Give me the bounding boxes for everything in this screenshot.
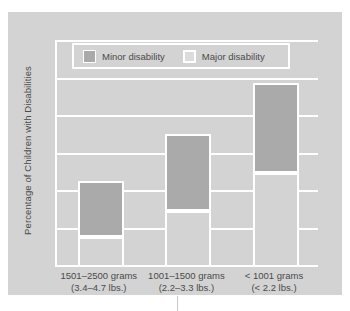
minor-disability-bar-2[interactable] xyxy=(165,134,211,211)
x-label-1-line-1: 1501–2500 grams xyxy=(55,270,143,282)
x-label-1-line-2: (3.4–4.7 lbs.) xyxy=(55,282,143,294)
minor-disability-bar-3[interactable] xyxy=(253,83,299,173)
y-axis-title: Percentage of Children with Disabilities xyxy=(22,46,33,256)
legend-item-minor-disability[interactable]: Minor disability xyxy=(83,50,165,63)
x-label-1001-1500-grams: 1001–1500 grams (2.2–3.3 lbs.) xyxy=(143,270,231,294)
major-disability-bar-1[interactable] xyxy=(78,237,124,267)
x-label-2-line-2: (2.2–3.3 lbs.) xyxy=(143,282,231,294)
legend-label-major: Major disability xyxy=(202,51,265,62)
legend-label-minor: Minor disability xyxy=(102,51,165,62)
x-axis-labels: 1501–2500 grams (3.4–4.7 lbs.) 1001–1500… xyxy=(55,270,318,294)
major-disability-bar-2[interactable] xyxy=(165,211,211,267)
x-label-1501-2500-grams: 1501–2500 grams (3.4–4.7 lbs.) xyxy=(55,270,143,294)
chart-figure: Percentage of Children with Disabilities… xyxy=(8,12,342,295)
chart-legend: Minor disability Major disability xyxy=(72,43,290,69)
gridline-50: 50 xyxy=(57,78,318,80)
gridline-60: 60 xyxy=(57,40,318,42)
x-label-2-line-1: 1001–1500 grams xyxy=(143,270,231,282)
cropped-tick-artifact xyxy=(177,296,178,311)
plot-area: 60 50 40 30 20 10 0 xyxy=(55,40,318,267)
major-disability-bar-3[interactable] xyxy=(253,173,299,267)
major-swatch-icon xyxy=(183,50,196,63)
minor-swatch-icon xyxy=(83,50,96,63)
x-label-less-than-1001-grams: < 1001 grams (< 2.2 lbs.) xyxy=(230,270,318,294)
legend-item-major-disability[interactable]: Major disability xyxy=(183,50,265,63)
x-label-3-line-1: < 1001 grams xyxy=(230,270,318,282)
x-label-3-line-2: (< 2.2 lbs.) xyxy=(230,282,318,294)
minor-disability-bar-1[interactable] xyxy=(78,181,124,237)
